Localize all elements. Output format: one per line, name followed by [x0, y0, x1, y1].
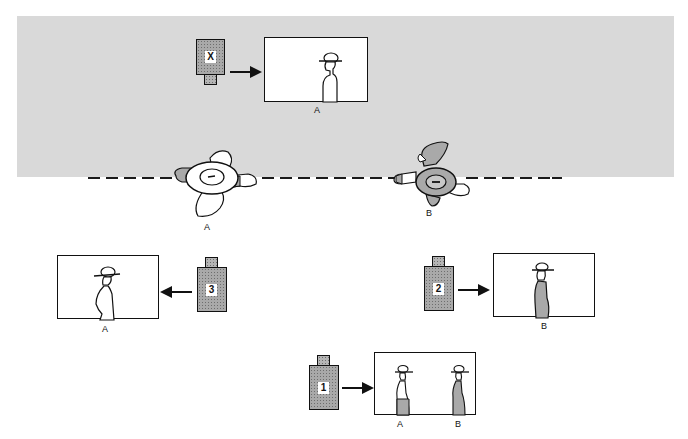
camera-2-label: 2 — [433, 283, 444, 295]
camera-2-frame-label: B — [541, 321, 547, 331]
actor-a-overhead-icon — [168, 148, 263, 220]
camera-1-frame-label-a: A — [397, 419, 403, 429]
camera-x-label: X — [205, 51, 216, 63]
person-a-profile-icon — [393, 365, 417, 415]
actor-b-label: B — [426, 208, 432, 218]
camera-1-label: 1 — [318, 382, 329, 394]
camera-x-frame-label: A — [314, 105, 320, 115]
camera-2-frame — [493, 253, 595, 317]
camera-1-frame — [374, 352, 476, 415]
arrow-left-icon — [160, 286, 192, 298]
camera-x-frame — [264, 37, 368, 102]
person-b-profile-icon — [530, 262, 560, 318]
camera-3-label: 3 — [206, 284, 217, 296]
actor-a-label: A — [204, 222, 210, 232]
person-a-profile-icon — [317, 52, 357, 102]
camera-3-frame-label: A — [102, 324, 108, 334]
person-a-profile-icon — [92, 266, 132, 320]
camera-3-frame — [57, 255, 159, 319]
camera-x-lens — [204, 74, 217, 85]
arrow-right-icon — [342, 382, 374, 394]
actor-b-overhead-icon — [392, 140, 472, 202]
camera-1-frame-label-b: B — [455, 419, 461, 429]
person-b-profile-icon — [449, 365, 473, 415]
arrow-right-icon — [458, 284, 490, 296]
arrow-right-icon — [230, 66, 262, 78]
